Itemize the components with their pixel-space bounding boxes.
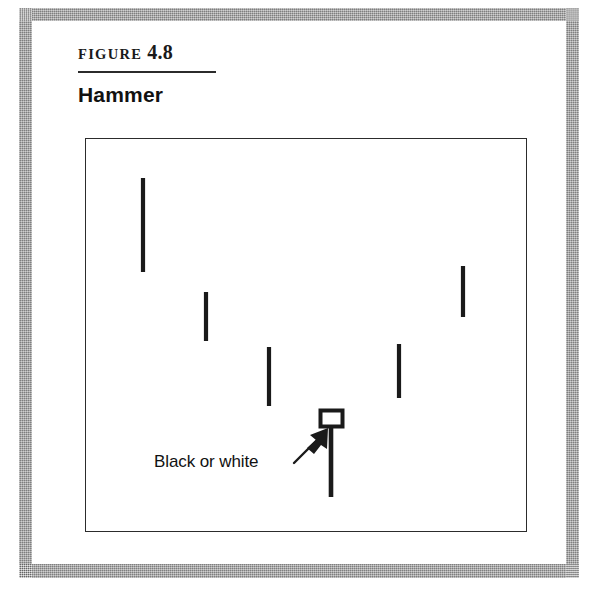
figure-page: FIGURE4.8 Hammer Black or white <box>0 0 603 607</box>
figure-label-number: 4.8 <box>147 41 173 63</box>
figure-caption-header: FIGURE4.8 <box>78 42 378 62</box>
figure-title: Hammer <box>78 83 163 107</box>
annotation-label: Black or white <box>154 452 258 472</box>
figure-label-word: FIGURE <box>78 46 142 62</box>
annotation-arrow-head <box>307 428 328 454</box>
figure-header-rule <box>78 71 216 73</box>
hammer-real-body <box>321 411 343 427</box>
candlestick-chart <box>85 138 527 532</box>
figure-label: FIGURE4.8 <box>78 42 378 62</box>
